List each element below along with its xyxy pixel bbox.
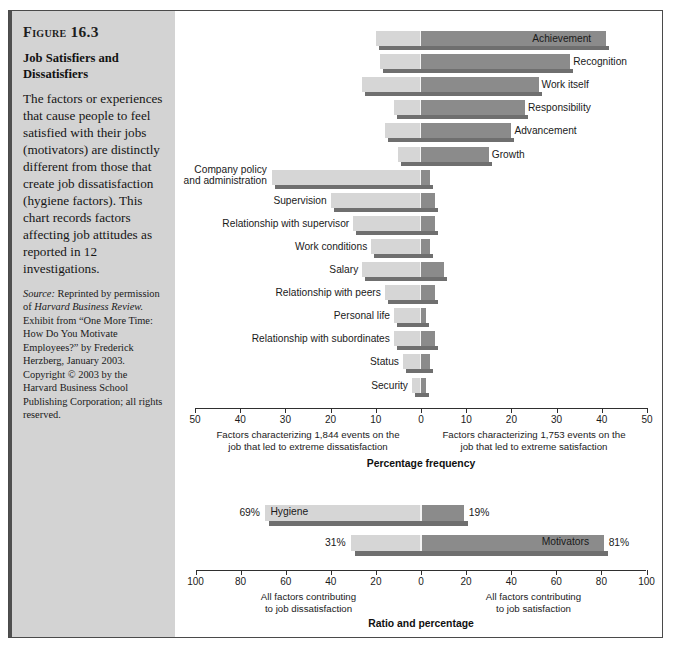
bar-segment-dissatisfaction (385, 123, 421, 138)
bar-segment-satisfaction (421, 331, 435, 346)
x-axis-tick-label: 50 (180, 414, 210, 425)
bar-row: Relationship with peers (175, 285, 662, 306)
source-prefix: Source: (23, 288, 55, 299)
bar-segment-satisfaction (421, 285, 435, 300)
bar-label: Work itself (542, 78, 589, 92)
bar-segment-satisfaction (421, 147, 489, 162)
bar-segment-satisfaction (421, 239, 430, 254)
figure-description: The factors or experiences that cause pe… (23, 91, 163, 277)
bar-label: Personal life (334, 309, 390, 323)
x-axis-tick (286, 570, 287, 575)
bar-shadow (379, 46, 610, 50)
bar-segment-dissatisfaction (376, 31, 421, 46)
bar-row: Advancement (175, 123, 662, 144)
caption-line: job that led to extreme dissatisfaction (195, 441, 421, 453)
bar-segment-satisfaction (421, 54, 570, 69)
bar-row: Company policy and administration (175, 170, 662, 191)
bar-label: Company policy and administration (181, 164, 267, 187)
bar-label: Relationship with supervisor (222, 217, 349, 231)
bar-label: Achievement (532, 32, 591, 46)
bar-value-right: 19% (469, 507, 490, 518)
zero-separator (420, 331, 421, 346)
x-axis-tick-label: 10 (361, 414, 391, 425)
x-axis-tick (511, 408, 512, 413)
bar-shadow (401, 162, 491, 166)
zero-separator (420, 378, 421, 393)
source-rest: Exhibit from “One More Time: How Do You … (23, 315, 162, 421)
figure-number: 16.3 (70, 23, 98, 40)
charts-area: AchievementRecognitionWork itselfRespons… (175, 11, 662, 637)
bar-shadow (397, 115, 528, 119)
zero-separator (420, 31, 421, 46)
bar-segment-dissatisfaction (272, 170, 421, 185)
x-axis-title-2: Ratio and percentage (196, 618, 646, 629)
bar-segment-dissatisfaction (398, 147, 421, 162)
x-axis-tick-label: 0 (406, 576, 436, 587)
figure-label: Figure 16.3 (23, 23, 163, 41)
bar-segment-dissatisfaction (371, 239, 421, 254)
bar-label: Advancement (514, 124, 576, 138)
bar-label: Security (371, 379, 408, 393)
bar-name: Hygiene (270, 506, 308, 517)
x-axis-caption-left-1: Factors characterizing 1,844 events on t… (195, 429, 421, 454)
bar-segment-dissatisfaction (394, 100, 421, 115)
zero-separator (420, 262, 421, 277)
bar-shadow (275, 185, 433, 189)
bar-segment-dissatisfaction (394, 308, 421, 323)
bar-label: Growth (492, 148, 525, 162)
bar-segment-satisfaction (421, 308, 426, 323)
x-axis-tick-label: 60 (271, 576, 301, 587)
caption-line: All factors contributing (421, 591, 646, 603)
bar-shadow (388, 138, 515, 142)
zero-separator (420, 147, 421, 162)
bar-value-left: 31% (325, 537, 346, 548)
x-axis-tick (285, 408, 286, 413)
figure-source: Source: Reprinted by permission of Harva… (23, 287, 163, 422)
x-axis-title-1: Percentage frequency (195, 458, 647, 469)
x-axis-tick-label: 40 (316, 576, 346, 587)
bar-row: Supervision (175, 193, 662, 214)
bar-segment-satisfaction (421, 100, 525, 115)
bar-row: Work itself (175, 77, 662, 98)
bar-segment-dissatisfaction (362, 262, 421, 277)
bar-shadow (397, 346, 438, 350)
bar-shadow (365, 277, 446, 281)
x-axis-tick (556, 570, 557, 575)
x-axis-tick-label: 20 (451, 576, 481, 587)
bar-label: Responsibility (528, 101, 591, 115)
caption-line: Factors characterizing 1,844 events on t… (195, 429, 421, 441)
zero-separator (420, 505, 422, 521)
bar-shadow (365, 92, 541, 96)
bar-row: Personal life (175, 308, 662, 329)
bar-label: Work conditions (295, 240, 367, 254)
x-axis-tick-label: 20 (361, 576, 391, 587)
x-axis-tick (647, 570, 648, 575)
zero-separator (420, 77, 421, 92)
bar-label: Relationship with peers (276, 286, 381, 300)
x-axis-tick (511, 570, 512, 575)
x-axis-tick (466, 408, 467, 413)
bar-segment-satisfaction (421, 193, 435, 208)
bar-shadow (269, 521, 467, 526)
x-axis-caption-left-2: All factors contributingto job dissatisf… (196, 591, 421, 616)
bar-segment-dissatisfaction (351, 535, 421, 551)
x-axis-caption-right-2: All factors contributingto job satisfact… (421, 591, 646, 616)
bar-row: Salary (175, 262, 662, 283)
caption-line: Factors characterizing 1,753 events on t… (421, 429, 647, 441)
bar-row: 69%19%Hygiene (175, 505, 662, 527)
bar-segment-satisfaction (421, 262, 444, 277)
zero-separator (420, 193, 421, 208)
figure-label-word: Figure (23, 24, 66, 40)
x-axis-tick-label: 30 (270, 414, 300, 425)
bar-segment-dissatisfaction (385, 285, 421, 300)
bar-segment-satisfaction (421, 354, 430, 369)
bar-segment-dissatisfaction (353, 216, 421, 231)
x-axis-tick-label: 40 (496, 576, 526, 587)
bar-label: Status (370, 355, 399, 369)
x-axis-tick-label: 0 (406, 414, 436, 425)
x-axis-tick-label: 100 (181, 576, 211, 587)
bar-row: Relationship with supervisor (175, 216, 662, 237)
x-axis-tick-label: 40 (587, 414, 617, 425)
bar-shadow (388, 300, 438, 304)
bar-segment-satisfaction (421, 378, 426, 393)
